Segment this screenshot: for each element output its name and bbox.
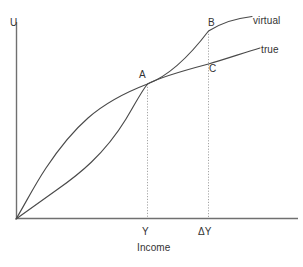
point-label-c: C [209, 63, 216, 74]
x-tick-label-delta-y: ΔY [198, 226, 212, 237]
point-label-a: A [139, 69, 146, 80]
point-label-b: B [208, 17, 215, 28]
series-label-true: true [261, 44, 279, 55]
chart-figure: U virtual true B C A Y ΔY Income [0, 0, 303, 267]
chart-plot-area [0, 0, 303, 267]
curve-virtual [16, 17, 252, 220]
x-tick-label-y: Y [142, 226, 149, 237]
series-label-virtual: virtual [253, 15, 280, 26]
x-axis-label: Income [137, 242, 170, 253]
y-axis-label: U [10, 17, 17, 28]
curve-true [16, 48, 260, 219]
